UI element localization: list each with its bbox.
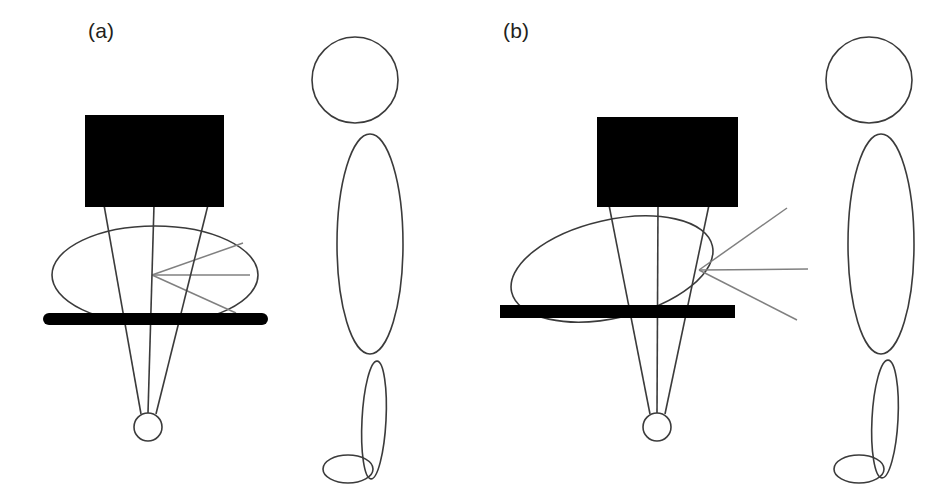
figure-container: (a) (b) [0,0,949,498]
panel-a [43,37,403,483]
person-figure-b [826,37,914,483]
person-torso-a [337,134,403,354]
person-leg-b [869,359,901,478]
beam-lines-a [104,205,208,414]
sight-ray-middle-b [699,269,808,270]
display-rectangle-b [597,117,738,207]
panel-label-b: (b) [503,19,529,43]
sight-ray-upper-b [699,208,787,270]
base-circle-a [134,413,162,441]
beam-line-center-a [148,205,154,413]
figure-canvas [0,0,949,498]
person-figure-a [312,37,403,483]
person-torso-b [848,134,914,354]
person-leg-a [359,360,389,479]
beam-line-right-a [156,205,208,414]
sight-rays-b [699,208,808,320]
panel-b [500,37,914,483]
person-head-b [826,37,912,123]
desk-bar-b [500,305,735,318]
display-rectangle-a [85,115,224,207]
beam-line-left-a [104,205,141,414]
base-circle-b [643,413,671,441]
sight-ray-lower-a [152,275,236,313]
person-head-a [312,37,398,123]
sight-rays-a [152,243,250,313]
person-foot-b [834,455,884,483]
panel-label-a: (a) [88,19,114,43]
desk-bar-a [43,313,268,325]
